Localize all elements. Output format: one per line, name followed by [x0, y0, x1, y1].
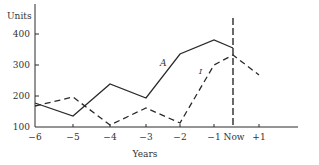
x-tick-label-minus6: −6: [28, 132, 42, 142]
y-tick-label-100: 100: [13, 122, 30, 132]
series-i-label: I: [198, 67, 203, 76]
line-chart: Units 400 300 200 100 −6 −5 −4 −3 −2 −1 …: [0, 0, 319, 165]
y-ticks: [35, 34, 39, 96]
x-axis-title: Years: [132, 149, 158, 159]
x-tick-label-minus2: −2: [173, 132, 186, 142]
y-tick-label-400: 400: [13, 29, 30, 39]
x-tick-label-minus5: −5: [66, 132, 80, 142]
x-tick-label-minus3: −3: [139, 132, 153, 142]
x-tick-label-plus1: +1: [252, 132, 265, 142]
series-a-line: [35, 40, 233, 116]
x-tick-label-now: Now: [224, 132, 245, 142]
x-tick-label-minus1: −1: [207, 132, 220, 142]
y-tick-label-300: 300: [13, 60, 30, 70]
y-axis-title: Units: [7, 11, 32, 21]
y-tick-label-200: 200: [13, 91, 30, 101]
x-tick-label-minus4: −4: [103, 132, 117, 142]
series-a-label: A: [159, 58, 167, 68]
